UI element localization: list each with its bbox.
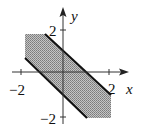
region-diagram: −2 2 x 2 −2 y (0, 0, 142, 132)
x-tick-label-neg2: −2 (9, 82, 25, 98)
shaded-region (25, 34, 111, 118)
x-tick-label-2: 2 (108, 81, 116, 97)
y-tick-label-neg2: −2 (40, 111, 56, 127)
y-tick-label-2: 2 (49, 23, 57, 39)
x-axis-label: x (125, 81, 133, 97)
y-axis-label: y (69, 8, 78, 24)
